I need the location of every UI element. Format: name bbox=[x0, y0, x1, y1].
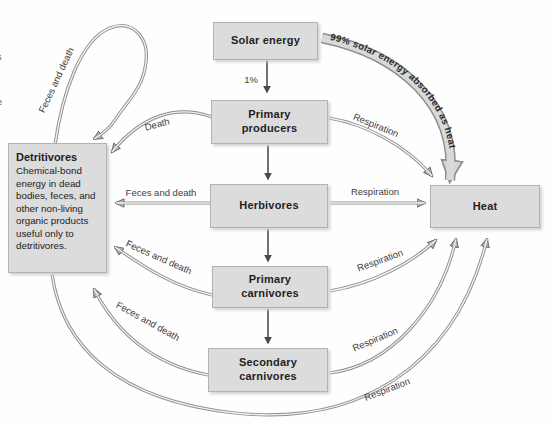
node-label-herbivores: Herbivores bbox=[239, 199, 298, 213]
node-heat: Heat bbox=[430, 185, 540, 228]
node-label-primary-producers: Primary producers bbox=[242, 108, 298, 136]
arrow-label-1-percent: 1% bbox=[244, 74, 258, 85]
arrow-respiration-pcarnivores-core bbox=[330, 240, 436, 291]
arrow-respiration-pcarnivores-to-heat bbox=[330, 240, 436, 291]
node-label-primary-carnivores: Primary carnivores bbox=[241, 273, 299, 301]
arrow-label-feces-herbivores: Feces and death bbox=[126, 187, 197, 198]
energy-flow-diagram: 99% solar energy absorbed as heat bbox=[0, 0, 556, 426]
node-label-detritivores-body: Chemical-bond energy in dead bodies, fec… bbox=[16, 165, 100, 253]
node-solar-energy: Solar energy bbox=[213, 22, 318, 60]
edge-text-fragment: e bbox=[0, 97, 2, 107]
node-herbivores: Herbivores bbox=[210, 184, 328, 228]
node-detritivores: Detritivores Chemical-bond energy in dea… bbox=[8, 143, 107, 273]
node-label-detritivores-title: Detritivores bbox=[16, 151, 77, 163]
node-primary-carnivores: Primary carnivores bbox=[212, 266, 328, 308]
edge-text-fragment: s bbox=[0, 52, 2, 62]
node-secondary-carnivores: Secondary carnivores bbox=[208, 348, 328, 392]
node-label-heat: Heat bbox=[473, 200, 498, 214]
node-label-secondary-carnivores: Secondary carnivores bbox=[239, 356, 297, 384]
arrow-feces-scarnivores-core bbox=[94, 289, 208, 375]
node-label-solar-energy: Solar energy bbox=[231, 34, 300, 48]
arrow-feces-scarnivores-to-detritivores bbox=[94, 289, 208, 375]
arrow-label-respiration-herbivores: Respiration bbox=[351, 186, 399, 197]
node-primary-producers: Primary producers bbox=[211, 100, 328, 144]
arrow-detritivores-loop-core bbox=[55, 26, 146, 145]
